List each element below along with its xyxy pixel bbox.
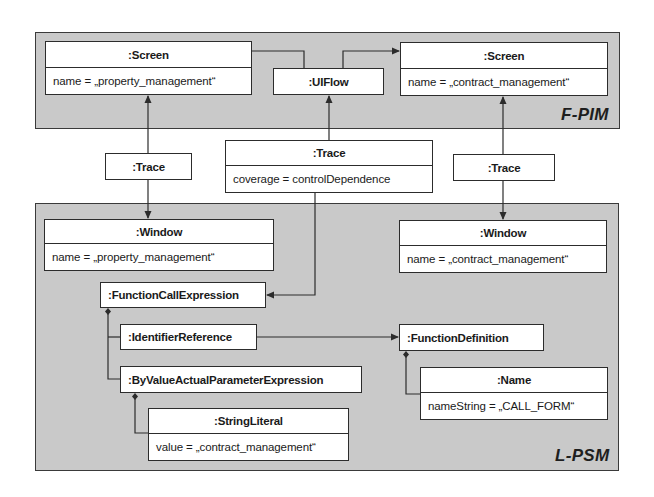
screen-property-management: :Screen name = „property_management“ bbox=[45, 41, 252, 95]
object-name: :IdentifierReference bbox=[121, 325, 256, 349]
object-attribute: name = „property_management“ bbox=[46, 67, 251, 94]
object-name: :Window bbox=[45, 220, 273, 243]
object-name: :Trace bbox=[106, 154, 191, 179]
object-attribute: name = „contract_management“ bbox=[401, 68, 607, 95]
object-attribute: value = „contract_management“ bbox=[149, 433, 348, 460]
object-name: :UIFlow bbox=[274, 69, 383, 94]
object-attribute: name = „property_management“ bbox=[45, 243, 273, 270]
name-object: :Name nameString = „CALL_FORM“ bbox=[420, 367, 608, 420]
object-name: :FunctionDefinition bbox=[400, 325, 543, 350]
lpsm-label: L-PSM bbox=[555, 446, 609, 466]
screen-contract-management: :Screen name = „contract_management“ bbox=[400, 42, 608, 96]
by-value-actual-parameter-expression: :ByValueActualParameterExpression bbox=[120, 366, 362, 393]
function-definition: :FunctionDefinition bbox=[399, 324, 544, 351]
trace-right: :Trace bbox=[453, 154, 555, 181]
object-name: :StringLiteral bbox=[149, 409, 348, 433]
object-name: :FunctionCallExpression bbox=[101, 283, 265, 307]
uiflow-object: :UIFlow bbox=[273, 68, 384, 95]
object-name: :Trace bbox=[454, 155, 554, 180]
object-name: :Screen bbox=[401, 43, 607, 68]
trace-middle: :Trace coverage = controlDependence bbox=[225, 140, 433, 193]
object-name: :Name bbox=[421, 368, 607, 392]
window-contract-management: :Window name = „contract_management“ bbox=[399, 220, 607, 273]
object-attribute: coverage = controlDependence bbox=[226, 165, 432, 192]
fpim-label: F-PIM bbox=[561, 105, 609, 125]
object-name: :Window bbox=[400, 221, 606, 245]
window-property-management: :Window name = „property_management“ bbox=[44, 219, 274, 271]
object-name: :Trace bbox=[226, 141, 432, 165]
object-name: :ByValueActualParameterExpression bbox=[121, 367, 361, 392]
function-call-expression: :FunctionCallExpression bbox=[100, 282, 266, 308]
identifier-reference: :IdentifierReference bbox=[120, 324, 257, 350]
object-attribute: nameString = „CALL_FORM“ bbox=[421, 392, 607, 419]
object-attribute: name = „contract_management“ bbox=[400, 245, 606, 272]
string-literal: :StringLiteral value = „contract_managem… bbox=[148, 408, 349, 461]
object-name: :Screen bbox=[46, 42, 251, 67]
trace-left: :Trace bbox=[105, 153, 192, 180]
